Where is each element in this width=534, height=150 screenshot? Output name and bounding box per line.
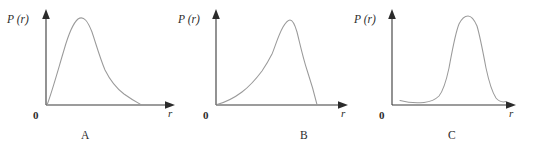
y-axis-arrow-a bbox=[42, 9, 50, 19]
x-axis-label-b: r bbox=[341, 108, 345, 119]
panel-caption-b: B bbox=[300, 130, 308, 142]
panel-caption-a: A bbox=[81, 130, 89, 142]
origin-label-b: 0 bbox=[203, 110, 209, 121]
y-axis-label-c: P (r) bbox=[354, 14, 376, 26]
y-axis-arrow-c bbox=[388, 9, 396, 19]
plot-panel-b: P (r) 0 r B bbox=[176, 0, 356, 150]
figure-three-radial-distribution-plots: P (r) 0 r A P (r) 0 r B bbox=[0, 0, 534, 150]
origin-label-a: 0 bbox=[33, 110, 39, 121]
x-axis-label-c: r bbox=[509, 108, 513, 119]
curve-c bbox=[400, 16, 506, 103]
plot-panel-a: P (r) 0 r A bbox=[0, 0, 180, 150]
y-axis-arrow-b bbox=[212, 9, 220, 19]
plot-panel-c: P (r) 0 r C bbox=[352, 0, 534, 150]
y-axis-label-a: P (r) bbox=[7, 14, 29, 26]
curve-a bbox=[47, 18, 141, 105]
x-axis-label-a: r bbox=[168, 108, 172, 119]
panel-caption-c: C bbox=[448, 130, 456, 142]
y-axis-label-b: P (r) bbox=[178, 14, 200, 26]
origin-label-c: 0 bbox=[379, 110, 385, 121]
curve-b bbox=[217, 20, 317, 105]
